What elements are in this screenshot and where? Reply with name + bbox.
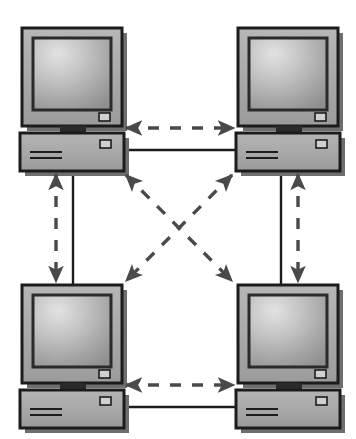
computer-top-right[interactable]	[236, 28, 345, 176]
cpu-power-button-icon	[100, 140, 111, 148]
monitor-screen	[249, 295, 327, 367]
computer-bottom-left[interactable]	[20, 285, 129, 433]
monitor-screen	[33, 38, 111, 110]
computer-top-left[interactable]	[20, 28, 129, 176]
monitor-power-button-icon	[99, 370, 110, 378]
cpu-power-button-icon	[316, 397, 327, 405]
monitor-power-button-icon	[315, 370, 326, 378]
cpu-power-button-icon	[316, 140, 327, 148]
monitor-power-button-icon	[315, 113, 326, 121]
computer-bottom-right[interactable]	[236, 285, 345, 433]
monitor-screen	[249, 38, 327, 110]
diagram-canvas	[0, 0, 356, 439]
monitor-screen	[33, 295, 111, 367]
cpu-power-button-icon	[100, 397, 111, 405]
monitor-power-button-icon	[99, 113, 110, 121]
network-topology-diagram	[0, 0, 356, 439]
